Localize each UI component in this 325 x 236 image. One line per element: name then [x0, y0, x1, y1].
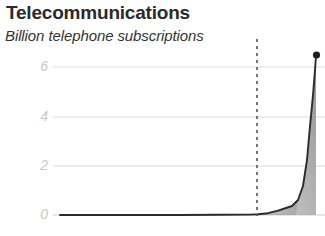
endpoint-dot: [313, 51, 320, 58]
gridlines: [53, 67, 325, 215]
y-axis-tick-4: 4: [26, 108, 48, 124]
area-fill-gradient: [296, 56, 316, 215]
y-axis-tick-6: 6: [26, 58, 48, 74]
data-line: [60, 56, 316, 215]
y-axis-tick-2: 2: [26, 157, 48, 173]
y-axis-tick-0: 0: [26, 206, 48, 222]
chart-plot-area: [0, 0, 325, 236]
area-fill: [60, 56, 316, 215]
chart-figure: Telecommunications Billion telephone sub…: [0, 0, 325, 236]
